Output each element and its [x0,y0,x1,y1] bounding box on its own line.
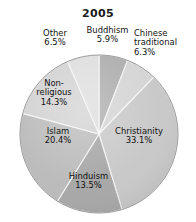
pie-outline [20,55,178,213]
pie-chart-figure: 2005 Other 6.5% Buddhism 5.9% Chinese tr… [0,0,196,222]
pie-graphic [0,0,196,222]
